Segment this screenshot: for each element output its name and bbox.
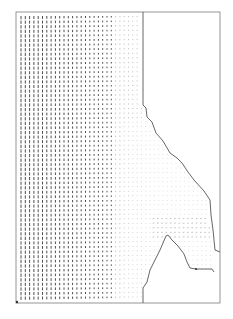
obstacle-boundary-line <box>143 235 214 303</box>
outer-boundary-line <box>143 12 220 252</box>
obstacle-marker <box>195 268 197 270</box>
corner-marker <box>16 301 18 303</box>
velocity-vectors <box>21 16 211 300</box>
vector-field-figure <box>0 0 233 319</box>
plot-frame <box>16 12 220 303</box>
